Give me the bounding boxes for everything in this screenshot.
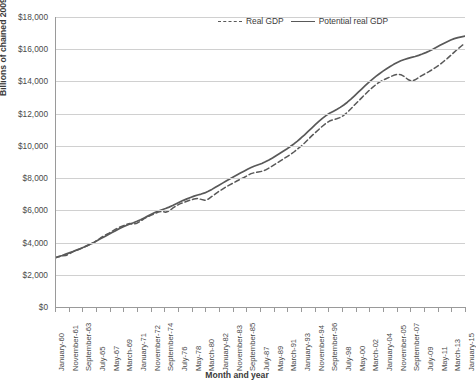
x-axis-tick-label: November-61: [72, 325, 80, 371]
x-axis-tick: [246, 307, 247, 312]
x-axis-tick: [315, 307, 316, 312]
x-axis-tick: [123, 307, 124, 312]
x-axis-tick: [178, 307, 179, 312]
gridline: [55, 243, 465, 244]
x-axis-tick: [451, 307, 452, 312]
x-axis-tick: [151, 307, 152, 312]
x-axis-tick-label: July-76: [181, 347, 189, 371]
gridline: [55, 146, 465, 147]
y-axis-tick-label: $4,000: [23, 239, 48, 247]
plot-area: [55, 17, 465, 307]
x-axis-tick-label: September-85: [249, 323, 257, 371]
x-axis-tick-label: March-80: [208, 339, 216, 371]
gridline: [55, 210, 465, 211]
x-axis-tick: [205, 307, 206, 312]
y-axis-line: [55, 17, 56, 307]
x-axis-tick: [82, 307, 83, 312]
x-axis-tick-label: July-87: [263, 347, 271, 371]
x-axis-tick-label: November-94: [318, 325, 326, 371]
gridline: [55, 49, 465, 50]
x-axis-tick-label: March-13: [454, 339, 462, 371]
x-axis-title: Month and year: [0, 370, 474, 380]
x-axis-tick-label: July-65: [99, 347, 107, 371]
x-axis-tick-label: January-93: [304, 333, 312, 371]
x-axis-tick: [96, 307, 97, 312]
x-axis-tick: [328, 307, 329, 312]
x-axis-tick-label: January-71: [140, 333, 148, 371]
y-axis-tick-label: $16,000: [18, 45, 48, 53]
x-axis-tick-label: November-05: [400, 325, 408, 371]
y-axis-tick-label: $14,000: [18, 77, 48, 85]
gridline: [55, 114, 465, 115]
series-line-real-gdp: [55, 43, 465, 258]
x-axis-tick: [287, 307, 288, 312]
x-axis-tick: [410, 307, 411, 312]
x-axis-tick: [342, 307, 343, 312]
x-axis-tick-label: May-89: [277, 346, 285, 371]
y-axis-tick-label: $6,000: [23, 206, 48, 214]
x-axis-tick: [438, 307, 439, 312]
gridline: [55, 275, 465, 276]
x-axis-tick-label: September-96: [331, 323, 339, 371]
x-axis-tick: [55, 307, 56, 312]
x-axis-tick: [164, 307, 165, 312]
x-axis-tick-label: September-63: [85, 323, 93, 371]
legend-label-potential-real-gdp: Potential real GDP: [319, 16, 388, 26]
x-axis-tick-label: November-72: [154, 325, 162, 371]
x-axis-tick: [274, 307, 275, 312]
x-axis-tick: [465, 307, 466, 312]
y-axis-tick-label: $8,000: [23, 174, 48, 182]
x-axis-tick-label: July-09: [427, 347, 435, 371]
y-axis-tick-label: $12,000: [18, 110, 48, 118]
x-axis-tick-labels: January-60November-61September-63July-65…: [55, 313, 465, 375]
y-axis-tick-labels: $18,000$16,000$14,000$12,000$10,000$8,00…: [0, 0, 52, 389]
x-axis-tick-label: January-82: [222, 333, 230, 371]
x-axis-tick-label: January-15: [468, 333, 476, 371]
x-axis-tick: [369, 307, 370, 312]
x-axis-tick: [110, 307, 111, 312]
legend-swatch-dashed-icon: [218, 21, 242, 22]
x-axis-tick-label: March-91: [290, 339, 298, 371]
x-axis-tick-label: September-74: [167, 323, 175, 371]
x-axis-tick: [69, 307, 70, 312]
x-axis-tick-label: July-98: [345, 347, 353, 371]
x-axis-tick: [424, 307, 425, 312]
x-axis-tick-label: March-02: [372, 339, 380, 371]
x-axis-tick: [219, 307, 220, 312]
x-axis-tick-label: May-78: [195, 346, 203, 371]
legend-label-real-gdp: Real GDP: [246, 16, 284, 26]
legend-entry-potential-real-gdp: Potential real GDP: [291, 16, 388, 26]
y-axis-tick-label: $18,000: [18, 13, 48, 21]
x-axis-tick-label: May-11: [441, 346, 449, 371]
x-axis-tick-label: November-83: [236, 325, 244, 371]
x-axis-tick: [137, 307, 138, 312]
chart-legend: Real GDP Potential real GDP: [218, 15, 388, 27]
x-axis-tick-label: January-04: [386, 333, 394, 371]
gridline: [55, 178, 465, 179]
x-axis-tick: [233, 307, 234, 312]
series-lines: [55, 17, 465, 307]
x-axis-tick: [383, 307, 384, 312]
x-axis-tick-label: January-60: [58, 333, 66, 371]
x-axis-tick: [192, 307, 193, 312]
series-line-potential-real-gdp: [55, 36, 465, 258]
x-axis-tick: [397, 307, 398, 312]
x-axis-tick: [260, 307, 261, 312]
x-axis-tick-label: September-07: [413, 323, 421, 371]
legend-entry-real-gdp: Real GDP: [218, 16, 284, 26]
y-axis-tick-label: $10,000: [18, 142, 48, 150]
y-axis-tick-label: $2,000: [23, 271, 48, 279]
x-axis-tick-label: March-69: [126, 339, 134, 371]
x-axis-tick-label: May-67: [113, 346, 121, 371]
x-axis-tick: [356, 307, 357, 312]
gridline: [55, 81, 465, 82]
legend-swatch-solid-icon: [291, 21, 315, 22]
x-axis-tick-label: May-00: [359, 346, 367, 371]
y-axis-tick-label: $0: [39, 303, 48, 311]
x-axis-tick: [301, 307, 302, 312]
